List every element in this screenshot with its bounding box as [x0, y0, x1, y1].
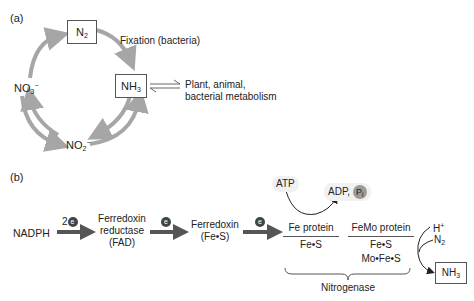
- electron-icon: e: [161, 217, 171, 227]
- nh3-box: NH3: [115, 74, 147, 98]
- fr-line2: reductase: [96, 225, 148, 237]
- nitrogenase-label: Nitrogenase: [318, 282, 378, 294]
- n2-reactant-label: N2: [434, 234, 445, 249]
- atp-label: ATP: [272, 176, 299, 192]
- fd-line2: (Fe•S): [190, 231, 240, 243]
- femo-protein-title: FeMo protein: [348, 222, 414, 237]
- nadph-label: NADPH: [13, 227, 50, 239]
- n2-label: N2: [76, 26, 88, 39]
- metabolism-line2: bacterial metabolism: [185, 91, 277, 103]
- femo-protein: FeMo protein Fe•S Mo•Fe•S: [348, 222, 414, 265]
- electron-3: e: [255, 216, 265, 228]
- fe-protein-cofactor: Fe•S: [283, 239, 339, 251]
- no2-label: NO2−: [66, 137, 91, 155]
- panel-b-label: (b): [10, 171, 23, 183]
- metabolism-line1: Plant, animal,: [185, 79, 277, 91]
- phosphate-icon: Pi: [353, 185, 367, 199]
- ferredoxin-reductase-label: Ferredoxin reductase (FAD): [96, 213, 148, 249]
- adp-pi-label: ADP, Pi: [324, 183, 371, 201]
- electron-count: 2: [62, 216, 68, 227]
- femo-cofactor-1: Fe•S: [348, 239, 414, 251]
- fe-protein: Fe protein Fe•S: [283, 222, 339, 251]
- fr-line3: (FAD): [96, 237, 148, 249]
- femo-cofactor-2: Mo•Fe•S: [348, 253, 414, 265]
- comma: ,: [347, 186, 350, 197]
- metabolism-label: Plant, animal, bacterial metabolism: [185, 79, 277, 103]
- nh3-product-box: NH3: [435, 262, 467, 284]
- fd-line1: Ferredoxin: [190, 219, 240, 231]
- electron-1: e: [161, 216, 171, 228]
- electron-icon: e: [68, 217, 78, 227]
- nh3-product-label: NH3: [442, 267, 460, 279]
- fixation-label: Fixation (bacteria): [120, 35, 200, 47]
- electron-icon: e: [255, 217, 265, 227]
- adp-text: ADP: [328, 186, 347, 197]
- fr-line1: Ferredoxin: [96, 213, 148, 225]
- ferredoxin-label: Ferredoxin (Fe•S): [190, 219, 240, 243]
- fe-protein-title: Fe protein: [283, 222, 339, 237]
- nh3-label: NH3: [121, 80, 141, 93]
- h-plus-label: H+: [433, 220, 444, 235]
- electron-2: 2e: [62, 216, 78, 228]
- no3-label: NO3−: [14, 80, 39, 98]
- n2-box: N2: [67, 20, 97, 44]
